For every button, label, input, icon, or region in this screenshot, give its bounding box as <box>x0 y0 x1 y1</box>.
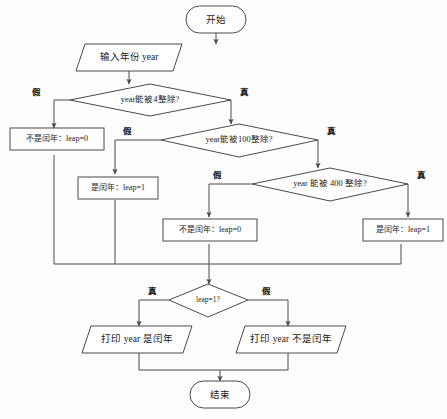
is-leap-a-label: 是闰年：leap=1 <box>91 182 145 192</box>
edge-label-div400-false: 假 <box>213 170 222 180</box>
edge-leapcheck-true <box>139 300 169 326</box>
print-not-leap-label: 打印 year 不是闰年 <box>250 333 331 344</box>
node-is-leap-b[interactable]: 是闰年：leap=1 <box>363 219 443 241</box>
edge-label-div100-false: 假 <box>123 126 132 136</box>
node-not-leap-b[interactable]: 不是闰年：leap=0 <box>163 219 257 241</box>
not-leap-b-label: 不是闰年：leap=0 <box>179 224 241 234</box>
edge-div400-false <box>209 184 252 217</box>
edge-label-div100-true: 真 <box>327 126 336 136</box>
end-label: 结束 <box>210 389 230 400</box>
merge-line-print-is-leap <box>139 353 220 370</box>
input-year-label: 输入年份 year <box>100 51 160 62</box>
flowchart-svg: 开始 输入年份 year year能被4整除? 假 真 不是闰年：leap=0 … <box>0 0 447 419</box>
node-print-not-leap[interactable]: 打印 year 不是闰年 <box>236 326 346 353</box>
node-not-leap-a[interactable]: 不是闰年：leap=0 <box>10 128 104 150</box>
node-decision-div400[interactable]: year 能被 400 整除? <box>252 168 408 201</box>
edge-div100-false <box>115 140 161 174</box>
not-leap-a-label: 不是闰年：leap=0 <box>26 133 88 143</box>
node-start[interactable]: 开始 <box>186 6 246 33</box>
edge-label-leapcheck-false: 假 <box>262 286 271 296</box>
edge-leapcheck-false <box>248 300 288 326</box>
start-label: 开始 <box>206 14 226 25</box>
flowchart-canvas: 开始 输入年份 year year能被4整除? 假 真 不是闰年：leap=0 … <box>0 0 447 419</box>
merge-line-print-not-leap <box>220 353 288 370</box>
edge-label-div400-true: 真 <box>417 170 426 180</box>
node-print-is-leap[interactable]: 打印 year 是闰年 <box>82 326 192 353</box>
edge-label-leapcheck-true: 真 <box>148 286 157 296</box>
node-decision-div100[interactable]: year能被100整除? <box>161 124 318 157</box>
node-input-year[interactable]: 输入年份 year <box>76 44 182 71</box>
print-is-leap-label: 打印 year 是闰年 <box>101 333 172 344</box>
edge-div4-false <box>54 100 70 128</box>
node-is-leap-a[interactable]: 是闰年：leap=1 <box>78 177 158 199</box>
decision-div100-label: year能被100整除? <box>205 134 272 144</box>
decision-div400-label: year 能被 400 整除? <box>293 178 367 188</box>
node-decision-leap-eq1[interactable]: leap=1? <box>169 284 248 317</box>
is-leap-b-label: 是闰年：leap=1 <box>376 224 430 234</box>
edge-label-div4-false: 假 <box>32 87 41 97</box>
node-end[interactable]: 结束 <box>190 381 250 408</box>
edge-label-div4-true: 真 <box>240 87 249 97</box>
node-decision-div4[interactable]: year能被4整除? <box>70 84 231 116</box>
decision-div4-label: year能被4整除? <box>121 94 180 104</box>
decision-leap-eq1-label: leap=1? <box>196 295 220 304</box>
